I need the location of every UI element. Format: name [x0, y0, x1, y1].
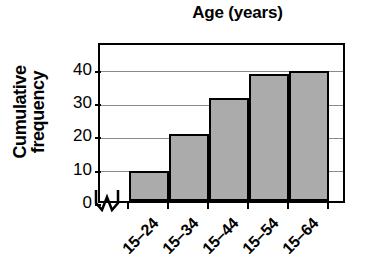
x-axis-tick-labels: 15–2415–3415–4415–5415–64 [0, 203, 374, 264]
plot-area [98, 43, 345, 203]
y-axis-tick-label: 20 [48, 126, 92, 146]
y-axis-tick-mark [95, 71, 101, 73]
bar [249, 74, 289, 201]
y-axis-tick-mark [95, 137, 101, 139]
x-axis-tick-label: 15–64 [279, 215, 322, 258]
y-axis-tick-label: 10 [48, 160, 92, 180]
y-axis-tick-label: 30 [48, 93, 92, 113]
y-axis-tick-mark [95, 104, 101, 106]
y-axis-title-line-2: frequency [29, 71, 47, 153]
x-axis-tick-label: 15–24 [119, 215, 162, 258]
y-axis-title-line-1: Cumulative [11, 65, 29, 158]
y-axis-tick-mark [95, 171, 101, 173]
y-axis-tick-marks [100, 45, 101, 201]
bar [169, 134, 209, 201]
chart-figure: Age (years) Cumulative frequency 0102030… [0, 0, 374, 264]
bar [289, 71, 329, 201]
bar [129, 171, 169, 201]
x-axis-tick-label: 15–34 [159, 215, 202, 258]
y-axis-tick-label: 40 [48, 60, 92, 80]
bar [209, 98, 249, 201]
x-axis-tick-label: 15–54 [239, 215, 282, 258]
x-axis-tick-label: 15–44 [199, 215, 242, 258]
chart-title: Age (years) [150, 3, 325, 23]
